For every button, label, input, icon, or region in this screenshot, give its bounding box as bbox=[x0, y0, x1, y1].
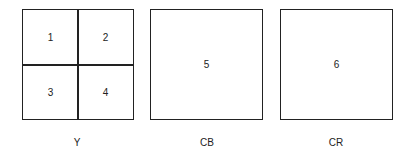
cb-block: 5 bbox=[150, 9, 263, 120]
y-block-1: 1 bbox=[23, 10, 78, 65]
y-component-label: Y bbox=[47, 137, 107, 148]
cb-block-5: 5 bbox=[151, 10, 262, 119]
y-block-4-label: 4 bbox=[103, 87, 109, 98]
cr-block: 6 bbox=[280, 9, 393, 120]
cr-component-label: CR bbox=[306, 137, 366, 148]
cr-block-6: 6 bbox=[281, 10, 392, 119]
y-block-grid: 1 2 3 4 bbox=[22, 9, 134, 120]
cb-component-label: CB bbox=[177, 137, 237, 148]
y-block-2: 2 bbox=[78, 10, 133, 65]
y-block-3: 3 bbox=[23, 65, 78, 120]
y-block-2-label: 2 bbox=[103, 32, 109, 43]
y-block-4: 4 bbox=[78, 65, 133, 120]
cb-block-5-label: 5 bbox=[204, 59, 210, 70]
y-block-3-label: 3 bbox=[48, 87, 54, 98]
y-block-1-label: 1 bbox=[48, 32, 54, 43]
cr-block-6-label: 6 bbox=[334, 59, 340, 70]
